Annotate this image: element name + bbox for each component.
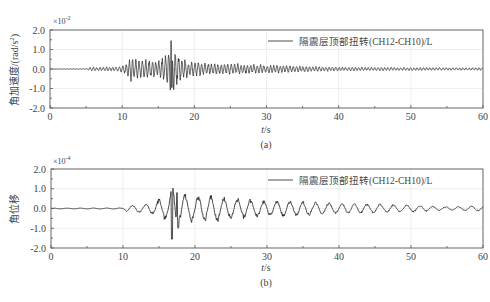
figure: 2.01.00.0-1.0-2.0 0102030405060 ×10-2 角加…	[0, 0, 490, 302]
y-tick-label: 2.0	[33, 25, 46, 36]
x-tick-label: 0	[49, 251, 54, 262]
x-tick-label: 10	[117, 111, 127, 122]
xtick-labels-b: 0102030405060	[49, 251, 489, 262]
panel-b: 2.01.00.0-1.0-2.0 0102030405060 ×10-4 角位…	[8, 155, 488, 289]
x-tick-label: 30	[262, 111, 272, 122]
y-tick-label: -2.0	[29, 103, 45, 114]
x-tick-label: 40	[334, 111, 344, 122]
y-tick-label: 1.0	[33, 44, 46, 55]
x-tick-label: 60	[478, 111, 488, 122]
y-tick-label: -2.0	[30, 243, 46, 254]
x-tick-label: 20	[189, 111, 199, 122]
caption-a: (a)	[260, 139, 271, 151]
exponent-b: ×10-4	[53, 155, 71, 166]
x-axis-label-b: t/s	[261, 262, 271, 273]
caption-b: (b)	[260, 277, 272, 289]
x-tick-label: 50	[406, 251, 416, 262]
legend-b: 隔震层顶部扭转(CH12-CH10)/L	[268, 175, 433, 187]
x-tick-label: 10	[118, 251, 128, 262]
y-tick-label: 2.0	[34, 164, 47, 175]
x-tick-label: 40	[334, 251, 344, 262]
xtick-labels-a: 0102030405060	[48, 111, 489, 122]
x-tick-label: 30	[262, 251, 272, 262]
ytick-labels-b: 2.01.00.0-1.0-2.0	[30, 164, 46, 254]
x-tick-label: 0	[48, 111, 53, 122]
legend-label-b: 隔震层顶部扭转(CH12-CH10)/L	[299, 175, 433, 187]
legend-a: 隔震层顶部扭转(CH12-CH10)/L	[268, 36, 433, 48]
y-tick-label: -1.0	[30, 223, 46, 234]
y-tick-label: -1.0	[29, 83, 45, 94]
legend-label-a: 隔震层顶部扭转(CH12-CH10)/L	[299, 36, 433, 48]
y-axis-label-b: 角位移	[8, 194, 20, 224]
y-tick-label: 0.0	[34, 203, 47, 214]
panel-a: 2.01.00.0-1.0-2.0 0102030405060 ×10-2 角加…	[8, 15, 488, 151]
y-tick-label: 1.0	[34, 183, 47, 194]
exponent-a: ×10-2	[53, 15, 71, 26]
x-tick-label: 20	[190, 251, 200, 262]
x-tick-label: 60	[478, 251, 488, 262]
ytick-labels-a: 2.01.00.0-1.0-2.0	[29, 25, 45, 114]
y-tick-label: 0.0	[33, 64, 46, 75]
x-axis-label-a: t/s	[261, 124, 271, 135]
y-axis-label-a: 角加速度/(rad/s2)	[8, 34, 21, 106]
x-tick-label: 50	[406, 111, 416, 122]
